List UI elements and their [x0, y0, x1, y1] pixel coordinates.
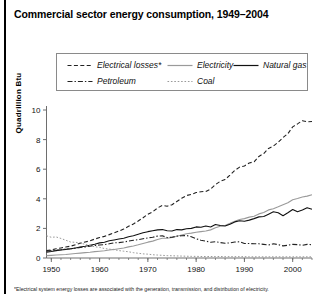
legend-row: Electrical losses*ElectricityNatural gas — [57, 58, 307, 73]
legend: Electrical losses*ElectricityNatural gas… — [56, 53, 308, 91]
y-tick-label: 10 — [32, 106, 41, 115]
series-line-electrical-losses — [47, 121, 313, 251]
x-tick-label: 1990 — [236, 265, 254, 274]
x-tick-label: 2000 — [284, 265, 302, 274]
chart-title: Commercial sector energy consumption, 19… — [14, 8, 268, 20]
figure: Commercial sector energy consumption, 19… — [0, 0, 320, 294]
y-tick-label: 4 — [36, 195, 41, 204]
series-line-natural-gas — [47, 208, 313, 253]
chart-canvas: 0246810195019601970198019902000 — [0, 96, 320, 276]
legend-item-electrical-losses: Electrical losses* — [67, 58, 161, 73]
legend-label: Electricity — [197, 61, 233, 70]
legend-swatch-dashed — [67, 61, 93, 70]
legend-label: Petroleum — [97, 77, 136, 86]
x-tick-label: 1970 — [139, 265, 157, 274]
legend-swatch-solid — [167, 61, 193, 70]
legend-item-coal: Coal — [167, 74, 214, 89]
footnote: *Electrical system energy losses are ass… — [14, 286, 318, 292]
legend-label: Coal — [197, 77, 214, 86]
legend-item-petroleum: Petroleum — [67, 74, 136, 89]
x-tick-label: 1950 — [42, 265, 60, 274]
y-tick-label: 8 — [36, 136, 41, 145]
y-tick-label: 2 — [36, 224, 41, 233]
x-tick-label: 1980 — [187, 265, 205, 274]
plot-area: 0246810195019601970198019902000 — [0, 96, 320, 276]
legend-item-natural-gas: Natural gas — [233, 58, 306, 73]
legend-item-electricity: Electricity — [167, 58, 233, 73]
x-tick-label: 1960 — [91, 265, 109, 274]
legend-swatch-dashdot — [67, 77, 93, 86]
y-tick-label: 6 — [36, 165, 41, 174]
legend-swatch-dotted — [167, 77, 193, 86]
legend-label: Electrical losses* — [97, 61, 161, 70]
series-line-petroleum — [47, 236, 313, 252]
y-tick-label: 0 — [36, 254, 41, 263]
legend-label: Natural gas — [263, 61, 306, 70]
legend-swatch-solid — [233, 61, 259, 70]
legend-row: PetroleumCoal — [57, 74, 307, 89]
